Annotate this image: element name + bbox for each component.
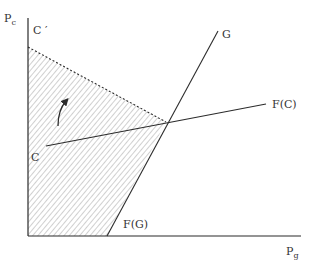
fg-label: F(G): [123, 218, 148, 231]
diagram: Pc C ′ C G F(C) F(G) Pg: [0, 0, 313, 267]
y-axis-label: Pc: [4, 12, 16, 27]
c-prime-label: C ′: [33, 24, 48, 37]
g-label: G: [222, 28, 231, 41]
c-label: C: [31, 151, 39, 164]
x-axis-label: Pg: [286, 245, 299, 260]
fc-label: F(C): [272, 98, 297, 111]
feasible-region: [28, 47, 166, 236]
